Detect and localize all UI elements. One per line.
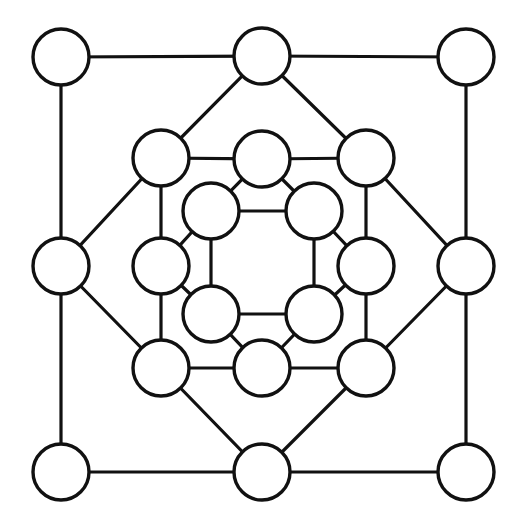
- node-outer-o_mr: [438, 238, 494, 294]
- node-outer-o_br: [438, 444, 494, 500]
- node-inner-i_bl: [183, 286, 239, 342]
- node-outer-o_bl: [33, 444, 89, 500]
- node-inner-i_br: [286, 286, 342, 342]
- node-inner-i_tr: [286, 183, 342, 239]
- node-layer: [33, 28, 494, 500]
- edge-o_tl-o_tm: [61, 56, 262, 57]
- edge-o_tm-o_tr: [262, 56, 466, 57]
- node-outer-o_tm: [234, 28, 290, 84]
- node-middle-m_bm: [234, 340, 290, 396]
- graph-diagram: [0, 0, 521, 527]
- node-inner-i_tl: [183, 183, 239, 239]
- node-outer-o_tr: [438, 29, 494, 85]
- edge-layer: [61, 56, 466, 472]
- node-outer-o_bm: [234, 444, 290, 500]
- node-middle-m_mr: [338, 238, 394, 294]
- node-outer-o_tl: [33, 29, 89, 85]
- node-middle-m_br: [338, 340, 394, 396]
- node-middle-m_ml: [133, 238, 189, 294]
- node-outer-o_ml: [33, 238, 89, 294]
- node-middle-m_bl: [133, 340, 189, 396]
- node-middle-m_tr: [338, 130, 394, 186]
- node-middle-m_tm: [234, 131, 290, 187]
- node-middle-m_tl: [133, 130, 189, 186]
